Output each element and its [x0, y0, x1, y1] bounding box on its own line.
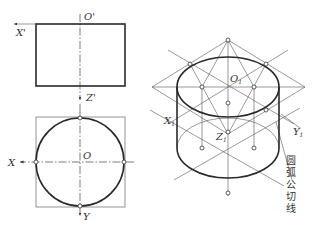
isometric-view: O1 X1 Y1 Z1 圆 弧 公 切 线: [150, 38, 305, 214]
point: [226, 38, 230, 42]
front-x-label: X': [15, 27, 26, 38]
point: [264, 62, 268, 66]
point: [226, 191, 230, 195]
point: [188, 62, 192, 66]
annotation-char: 线: [286, 202, 296, 214]
point: [200, 146, 204, 150]
point: [252, 146, 256, 150]
top-view: X O Y: [7, 112, 134, 222]
point: [252, 85, 256, 89]
top-y-label: Y: [83, 211, 91, 222]
x1-label: X1: [163, 115, 175, 127]
top-x-label: X: [7, 157, 16, 168]
y1-label: Y1: [293, 126, 303, 138]
z1-label: Z1: [215, 131, 227, 143]
top-origin-label: O: [83, 150, 91, 161]
annotation-char: 切: [286, 191, 296, 202]
arc-radius-line: [202, 40, 228, 87]
front-view: X' O' Z': [14, 11, 125, 112]
point: [226, 130, 230, 134]
tangent-point: [34, 160, 38, 164]
o1-label: O1: [230, 73, 242, 85]
tangent-point: [78, 116, 82, 120]
front-origin-label: O': [84, 11, 95, 22]
point: [200, 85, 204, 89]
front-z-label: Z': [85, 92, 96, 103]
annotation-char: 弧: [286, 166, 296, 178]
annotation-char: 圆: [286, 155, 296, 166]
tangent-point: [122, 160, 126, 164]
cylinder-isometric-diagram: X' O' Z' X O Y: [0, 0, 314, 229]
tangent-point: [78, 204, 82, 208]
point: [226, 101, 230, 105]
point: [264, 108, 268, 112]
annotation-char: 公: [286, 179, 296, 190]
front-view-rectangle: [36, 24, 125, 86]
